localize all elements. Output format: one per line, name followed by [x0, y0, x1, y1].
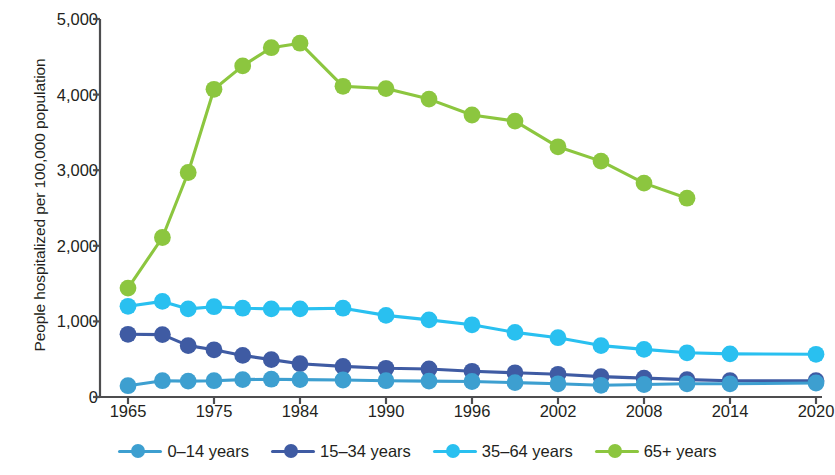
data-point-marker	[180, 337, 197, 354]
legend-marker-icon	[271, 443, 315, 459]
x-axis-tick-label: 2020	[798, 402, 835, 421]
data-point-marker	[234, 58, 251, 75]
data-point-marker	[636, 175, 653, 192]
legend-item[interactable]: 15–34 years	[271, 443, 411, 460]
data-point-marker	[421, 91, 438, 108]
data-point-marker	[180, 373, 197, 390]
data-point-marker	[550, 329, 567, 346]
data-point-marker	[206, 298, 223, 315]
data-point-marker	[507, 374, 524, 391]
data-point-marker	[292, 301, 309, 318]
data-point-marker	[234, 371, 251, 388]
x-axis-tick-label: 2014	[712, 402, 749, 421]
legend-marker-icon	[433, 443, 477, 459]
legend-marker-icon	[595, 443, 639, 459]
data-point-marker	[679, 190, 696, 207]
data-point-marker	[263, 351, 280, 368]
data-point-marker	[234, 300, 251, 317]
data-point-marker	[335, 78, 352, 95]
data-point-marker	[206, 372, 223, 389]
series-4	[120, 35, 696, 297]
chart-legend: 0–14 years15–34 years35–64 years65+ year…	[0, 443, 835, 460]
data-point-marker	[180, 301, 197, 318]
data-point-marker	[234, 347, 251, 364]
legend-item-label: 0–14 years	[167, 443, 249, 460]
data-point-marker	[507, 113, 524, 130]
data-point-marker	[421, 312, 438, 329]
data-point-marker	[154, 229, 171, 246]
data-point-marker	[292, 371, 309, 388]
x-axis-tick-labels: 196519751984199019962002200820142020	[0, 402, 835, 426]
data-point-marker	[722, 375, 739, 392]
data-point-marker	[120, 298, 137, 315]
data-point-marker	[206, 341, 223, 358]
data-point-marker	[180, 164, 197, 181]
data-point-marker	[292, 35, 309, 52]
data-point-marker	[335, 372, 352, 389]
data-point-marker	[464, 107, 481, 124]
data-point-marker	[636, 376, 653, 393]
series-1	[120, 371, 825, 394]
data-point-marker	[808, 375, 825, 392]
legend-item-label: 35–64 years	[482, 443, 573, 460]
x-axis-tick-label: 1965	[110, 402, 147, 421]
data-point-marker	[154, 372, 171, 389]
data-point-marker	[550, 375, 567, 392]
legend-item[interactable]: 65+ years	[595, 443, 717, 460]
line-chart: People hospitalized per 100,000 populati…	[0, 0, 835, 475]
data-point-marker	[120, 280, 137, 297]
data-point-marker	[378, 372, 395, 389]
data-point-marker	[120, 377, 137, 394]
data-point-marker	[421, 373, 438, 390]
x-axis-tick-label: 2008	[626, 402, 663, 421]
data-point-marker	[593, 337, 610, 354]
x-axis-tick-label: 1975	[196, 402, 233, 421]
data-point-marker	[154, 326, 171, 343]
data-point-marker	[636, 341, 653, 358]
data-point-marker	[263, 301, 280, 318]
data-point-marker	[154, 293, 171, 310]
data-point-marker	[206, 81, 223, 98]
data-point-marker	[263, 39, 280, 56]
data-point-marker	[335, 300, 352, 317]
data-point-marker	[292, 355, 309, 372]
axis-lines	[100, 19, 822, 397]
x-axis-tick-label: 1984	[282, 402, 319, 421]
data-point-marker	[378, 307, 395, 324]
data-point-marker	[722, 346, 739, 363]
data-point-marker	[679, 344, 696, 361]
data-point-marker	[378, 80, 395, 97]
data-point-marker	[808, 346, 825, 363]
data-point-marker	[507, 324, 524, 341]
x-axis-tick-label: 1996	[454, 402, 491, 421]
data-point-marker	[679, 375, 696, 392]
data-point-marker	[464, 373, 481, 390]
legend-item-label: 15–34 years	[320, 443, 411, 460]
legend-item-label: 65+ years	[644, 443, 717, 460]
data-point-marker	[593, 153, 610, 170]
data-point-marker	[263, 371, 280, 388]
legend-item[interactable]: 35–64 years	[433, 443, 573, 460]
data-point-marker	[593, 377, 610, 394]
legend-item[interactable]: 0–14 years	[118, 443, 249, 460]
data-point-marker	[550, 138, 567, 155]
x-axis-tick-label: 2002	[540, 402, 577, 421]
legend-marker-icon	[118, 443, 162, 459]
x-axis-tick-label: 1990	[368, 402, 405, 421]
data-point-marker	[464, 316, 481, 333]
data-point-marker	[120, 326, 137, 343]
